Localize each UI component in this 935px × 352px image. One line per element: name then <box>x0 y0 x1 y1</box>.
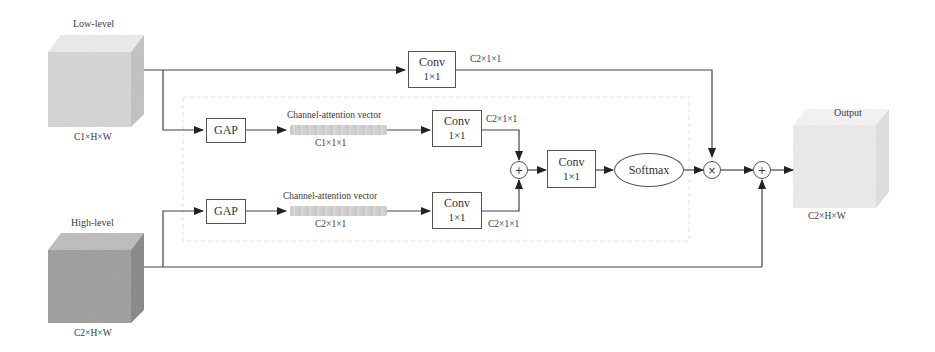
high-channel-attention-vector <box>290 206 387 216</box>
top-conv-out-shape: C2×1×1 <box>470 55 501 65</box>
low-vector-label: Channel-attention vector <box>287 111 381 121</box>
fusion-conv-kernel: 1×1 <box>563 170 580 184</box>
high-conv-label: Conv <box>444 196 470 211</box>
low-conv-kernel: 1×1 <box>448 129 465 143</box>
high-level-title: High-level <box>71 218 114 228</box>
output-shape: C2×H×W <box>808 212 846 222</box>
low-gap-box: GAP <box>206 118 246 143</box>
high-vector-shape: C2×1×1 <box>315 220 346 230</box>
low-conv-box: Conv 1×1 <box>432 110 482 147</box>
low-level-shape: C1×H×W <box>74 133 112 143</box>
high-level-shape: C2×H×W <box>74 329 112 339</box>
high-conv-box: Conv 1×1 <box>432 192 482 229</box>
high-level-cube <box>48 233 144 323</box>
top-conv-kernel: 1×1 <box>423 70 440 84</box>
softmax-node: Softmax <box>614 153 684 187</box>
residual-add-node: + <box>753 161 771 179</box>
low-level-title: Low-level <box>73 19 114 29</box>
fusion-conv-box: Conv 1×1 <box>547 150 596 188</box>
high-conv-kernel: 1×1 <box>448 211 465 225</box>
top-conv-label: Conv <box>419 55 445 70</box>
low-conv-out-shape: C2×1×1 <box>486 115 517 125</box>
high-gap-box: GAP <box>206 199 246 224</box>
low-conv-label: Conv <box>444 114 470 129</box>
low-vector-shape: C1×1×1 <box>315 139 346 149</box>
high-conv-out-shape: C2×1×1 <box>488 220 519 230</box>
diagram-canvas <box>0 0 935 352</box>
fusion-conv-label: Conv <box>558 155 584 170</box>
multiply-node: × <box>703 161 721 179</box>
low-gap-label: GAP <box>214 123 238 138</box>
high-gap-label: GAP <box>214 204 238 219</box>
high-vector-label: Channel-attention vector <box>283 192 377 202</box>
output-title: Output <box>834 108 862 118</box>
add-node: + <box>510 161 528 179</box>
low-level-cube <box>48 35 144 127</box>
output-cube <box>793 109 889 208</box>
top-conv-box: Conv 1×1 <box>408 51 456 88</box>
low-channel-attention-vector <box>290 125 387 135</box>
